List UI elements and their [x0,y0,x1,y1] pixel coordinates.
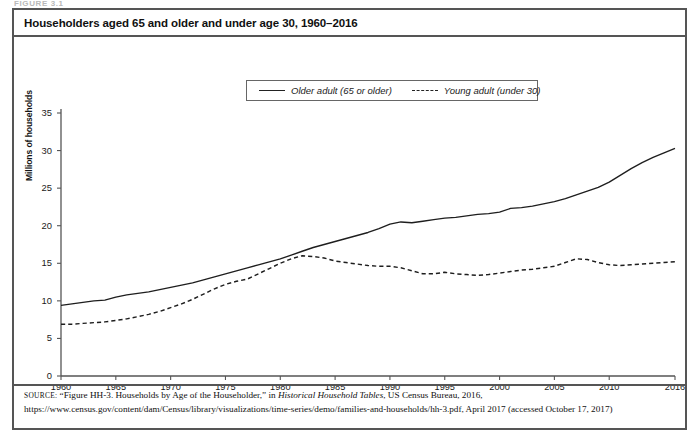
chart-area: Older adult (65 or older) Young adult (u… [14,37,685,384]
page-title: Householders aged 65 and older and under… [24,17,358,29]
source-kicker-label: SOURCE: [24,391,57,400]
source-note: SOURCE: “Figure HH-3. Households by Age … [24,389,676,415]
source-publication-title: Historical Household Tables [278,390,383,400]
source-divider [14,384,685,386]
figure-frame: Householders aged 65 and older and under… [12,8,687,430]
chart-plot [14,37,685,384]
series-line-2 [61,256,675,324]
figure-page: FIGURE 3.1 Householders aged 65 and olde… [0,0,699,437]
source-text-lead: “Figure HH-3. Households by Age of the H… [57,390,278,400]
figure-title-bar: Householders aged 65 and older and under… [14,10,685,37]
series-line-1 [61,148,675,305]
figure-label: FIGURE 3.1 [14,0,134,7]
